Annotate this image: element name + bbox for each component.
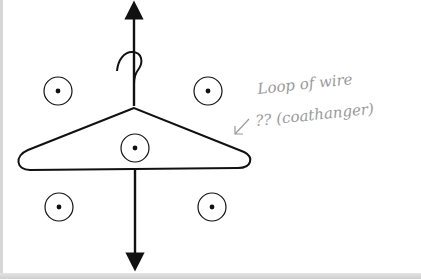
field-symbol-top-left	[44, 77, 72, 105]
annotation-line-1: Loop of wire	[256, 70, 354, 98]
annotation-line-2: ?? (coathanger)	[255, 100, 375, 130]
field-symbol-top-right	[194, 77, 222, 105]
diagram-canvas: Loop of wire ?? (coathanger)	[0, 0, 421, 279]
field-symbol-center	[121, 134, 149, 162]
coathanger-loop	[18, 108, 250, 170]
field-symbol-bottom-right	[198, 193, 226, 221]
field-symbol-bottom-left	[45, 193, 73, 221]
annotation-pointer-arrow	[235, 119, 249, 134]
hanger-hook	[117, 52, 141, 84]
